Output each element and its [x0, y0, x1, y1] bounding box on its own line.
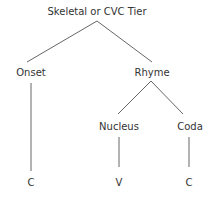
root-label: Skeletal or CVC Tier [47, 6, 146, 18]
edge-rhyme-nucleus [118, 81, 151, 114]
coda-leaf-c: C [186, 177, 193, 189]
edge-root-rhyme [97, 21, 152, 62]
onset-leaf-c: C [28, 177, 35, 189]
edge-root-onset [27, 21, 97, 62]
nucleus-leaf-v: V [116, 177, 123, 189]
tree-edges [0, 0, 213, 198]
onset-label: Onset [16, 67, 46, 79]
nucleus-label: Nucleus [99, 121, 139, 133]
rhyme-label: Rhyme [134, 67, 169, 79]
coda-label: Coda [177, 121, 203, 133]
edge-rhyme-coda [151, 81, 183, 114]
